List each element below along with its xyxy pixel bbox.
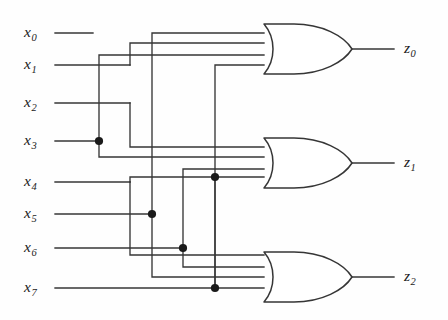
wire-x4-to-z2 — [130, 182, 264, 255]
input-label-x4-index: 4 — [31, 181, 36, 192]
junction-dot-x6 — [179, 244, 187, 252]
output-label-z2: z2 — [404, 268, 415, 284]
output-label-z2-name: z — [404, 267, 410, 284]
output-label-z0-index: 0 — [411, 48, 416, 59]
wire-x1-to-z0 — [130, 43, 264, 65]
input-label-x1-name: x — [24, 55, 31, 72]
wire-x3-to-z0 — [99, 55, 264, 141]
or-gate-z2 — [264, 252, 394, 302]
wire-x2-to-z1 — [130, 103, 264, 147]
input-label-x7-name: x — [24, 278, 31, 295]
input-label-x1: x1 — [24, 56, 36, 72]
input-label-x5: x5 — [24, 205, 36, 221]
circuit-svg — [0, 0, 448, 320]
output-label-z0: z0 — [404, 40, 415, 56]
input-label-x3: x3 — [24, 132, 36, 148]
input-wires — [55, 33, 215, 288]
or-gate-z1-body — [264, 138, 352, 188]
junction-dot-x3 — [95, 137, 103, 145]
input-label-x6-name: x — [24, 238, 31, 255]
input-label-x6-index: 6 — [31, 247, 36, 258]
output-label-z2-index: 2 — [411, 276, 416, 287]
input-label-x5-name: x — [24, 204, 31, 221]
input-label-x5-index: 5 — [31, 213, 36, 224]
output-label-z1: z1 — [404, 154, 415, 170]
input-label-x0: x0 — [24, 24, 36, 40]
input-label-x4-name: x — [24, 172, 31, 189]
routing-x4-bus — [130, 177, 215, 182]
junction-dot-x5 — [148, 210, 156, 218]
input-label-x3-name: x — [24, 131, 31, 148]
wire-x5-to-z0 — [152, 33, 264, 214]
input-label-x6: x6 — [24, 239, 36, 255]
output-label-z0-name: z — [404, 39, 410, 56]
wire-x4-step — [130, 177, 215, 182]
input-label-x0-index: 0 — [31, 32, 36, 43]
wire-x7-to-z1 — [215, 177, 264, 288]
junction-dot-x4-bus — [211, 173, 219, 181]
or-gate-z1 — [264, 138, 394, 188]
or-gate-z0 — [264, 24, 394, 74]
or-gate-z2-body — [264, 252, 352, 302]
wire-x6-to-z2 — [183, 248, 264, 267]
input-label-x2-index: 2 — [31, 102, 36, 113]
input-label-x1-index: 1 — [31, 64, 36, 75]
output-label-z1-index: 1 — [411, 162, 416, 173]
routing-z1 — [99, 103, 264, 288]
input-label-x0-name: x — [24, 23, 31, 40]
input-label-x2: x2 — [24, 94, 36, 110]
or-gate-z0-body — [264, 24, 352, 74]
input-label-x3-index: 3 — [31, 140, 36, 151]
input-label-x2-name: x — [24, 93, 31, 110]
wire-x3-to-z1 — [99, 141, 264, 157]
junction-dot-x7 — [211, 284, 219, 292]
routing-z2 — [130, 182, 264, 288]
wire-x6-to-z1 — [183, 169, 264, 248]
input-label-x7-index: 7 — [31, 287, 36, 298]
output-label-z1-name: z — [404, 153, 410, 170]
input-label-x4: x4 — [24, 173, 36, 189]
input-label-x7: x7 — [24, 279, 36, 295]
logic-circuit-figure: x0 x1 x2 x3 x4 x5 x6 x7 z0 z1 z2 — [0, 0, 448, 320]
